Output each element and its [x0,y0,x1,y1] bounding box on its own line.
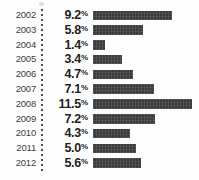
bar [93,114,155,124]
percent-sign: % [81,68,88,77]
row-value-label: 7.1% [44,81,88,96]
row-value-label: 9.2% [44,7,88,22]
chart-rows: 20029.2%20035.8%20041.4%20053.4%20064.7%… [0,8,199,171]
bar-track [93,84,199,94]
row-value-number: 4.3 [64,126,80,140]
row-year-label: 2008 [0,97,36,110]
row-year-label: 2010 [0,126,36,139]
chart-row: 20053.4% [0,52,199,67]
row-year-label: 2007 [0,82,36,95]
chart-row: 20125.6% [0,156,199,171]
row-year-label: 2004 [0,38,36,51]
bar-track [93,25,199,35]
bar-chart: 20029.2%20035.8%20041.4%20053.4%20064.7%… [0,0,199,180]
bar-track [93,99,199,109]
row-value-label: 7.2% [44,111,88,126]
percent-sign: % [81,83,88,92]
bar-track [93,55,199,65]
bar [93,99,192,109]
row-value-label: 5.8% [44,22,88,37]
row-value-number: 9.2 [64,8,80,22]
chart-row: 20097.2% [0,112,199,127]
percent-sign: % [81,127,88,136]
row-value-number: 7.1 [64,82,80,96]
row-value-number: 5.6 [64,156,80,170]
percent-sign: % [81,98,88,107]
row-value-number: 1.4 [64,38,80,52]
bar [93,158,141,168]
percent-sign: % [81,113,88,122]
row-value-label: 4.7% [44,66,88,81]
chart-row: 20029.2% [0,8,199,23]
percent-sign: % [81,142,88,151]
row-value-number: 4.7 [64,67,80,81]
row-value-number: 5.0 [64,141,80,155]
bar-track [93,114,199,124]
bar-track [93,129,199,139]
row-year-label: 2006 [0,67,36,80]
chart-row: 20064.7% [0,67,199,82]
speck-artifact [39,2,44,6]
bar-track [93,11,199,21]
row-value-label: 5.0% [44,140,88,155]
chart-row: 20104.3% [0,126,199,141]
row-value-label: 5.6% [44,155,88,170]
bar [93,25,143,35]
bar-track [93,158,199,168]
row-year-label: 2002 [0,8,36,21]
bar-track [93,70,199,80]
row-value-label: 1.4% [44,37,88,52]
row-value-number: 11.5 [58,97,80,111]
percent-sign: % [81,39,88,48]
row-year-label: 2009 [0,112,36,125]
row-year-label: 2012 [0,156,36,169]
bar-track [93,40,199,50]
chart-row: 20041.4% [0,38,199,53]
chart-row: 20077.1% [0,82,199,97]
chart-row: 20115.0% [0,141,199,156]
row-year-label: 2003 [0,23,36,36]
percent-sign: % [81,53,88,62]
row-year-label: 2005 [0,52,36,65]
percent-sign: % [81,24,88,33]
bar-track [93,144,199,154]
bar [93,84,154,94]
row-value-number: 5.8 [64,23,80,37]
bar [93,11,172,21]
row-value-number: 3.4 [64,52,80,66]
percent-sign: % [81,157,88,166]
row-value-label: 4.3% [44,125,88,140]
bar [93,144,136,154]
percent-sign: % [81,9,88,18]
bar [93,70,133,80]
chart-row: 20035.8% [0,23,199,38]
bar [93,40,105,50]
chart-row: 200811.5% [0,97,199,112]
bar [93,55,122,65]
bar [93,129,130,139]
row-value-number: 7.2 [64,112,80,126]
row-value-label: 11.5% [44,96,88,111]
row-year-label: 2011 [0,141,36,154]
row-value-label: 3.4% [44,51,88,66]
